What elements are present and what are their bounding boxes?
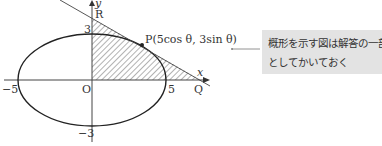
label-origin: O [82, 83, 91, 96]
label-q: Q [194, 83, 203, 96]
callout-line-1: 概形を示す図は解答の一部 [268, 34, 378, 53]
callout-pointer-dot [231, 48, 233, 50]
label-yneg3: −3 [78, 127, 94, 140]
x-axis-label: x [197, 66, 204, 79]
label-xneg5: −5 [2, 83, 18, 96]
annotation-callout: 概形を示す図は解答の一部 としてかいておく [262, 30, 382, 74]
point-p [140, 43, 144, 47]
label-y3: 3 [84, 23, 91, 36]
label-x5: 5 [168, 83, 175, 96]
label-p: P(5cos θ, 3sin θ) [145, 33, 237, 46]
callout-line-2: としてかいておく [268, 53, 378, 72]
label-r: R [95, 8, 104, 21]
